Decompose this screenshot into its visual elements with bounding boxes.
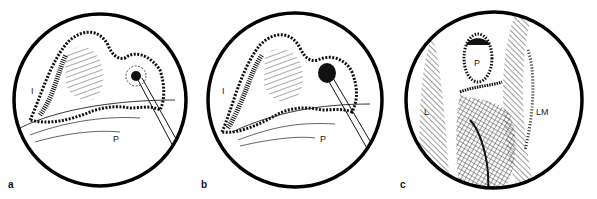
annotation-b-P: P [320,135,326,144]
panel-a-drawing [14,14,186,186]
annotation-c-L: L [424,108,429,117]
figure-illustration [0,0,597,199]
annotation-c-LM: LM [536,108,549,117]
panel-label-c: c [400,180,406,190]
annotation-a-I: I [31,87,34,96]
annotation-c-P: P [474,59,480,68]
panel-label-a: a [8,180,14,190]
annotation-a-P: P [113,135,119,144]
panel-label-b: b [201,180,207,190]
annotation-b-I: I [222,87,225,96]
panel-b-drawing [208,13,382,187]
panel-c-drawing [406,12,582,190]
